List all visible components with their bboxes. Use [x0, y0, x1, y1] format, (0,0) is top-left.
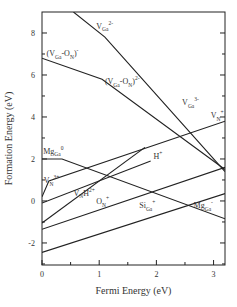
x-tick-label: 3	[212, 270, 216, 279]
defect-label: (VGa-ON)2-	[105, 75, 140, 88]
y-tick-label: 4	[31, 113, 35, 122]
y-tick-label: 8	[31, 29, 35, 38]
defect-label: VGa3-	[182, 96, 199, 109]
annotations: VGa2-(VGa-ON)-(VGa-ON)2-VGa3-VN+MgGa0VN3…	[43, 20, 223, 212]
x-tick-label: 2	[154, 270, 158, 279]
defect-label: VN3+	[44, 174, 60, 187]
defect-label: VNH2+	[73, 187, 94, 200]
defect-label: MgGa-	[194, 199, 214, 212]
x-axis-title: Fermi Energy (eV)	[96, 285, 172, 297]
y-tick-label: 2	[31, 155, 35, 164]
x-tick-label: 1	[97, 270, 101, 279]
y-axis-title: Formation Energy (eV)	[3, 92, 15, 186]
defect-label: VGa2-	[96, 20, 113, 33]
x-tick-label: 0	[40, 270, 44, 279]
defect-label: (VGa-ON)-	[47, 47, 79, 60]
defect-label: SiGa+	[139, 199, 155, 212]
defect-label: VN+	[211, 109, 224, 122]
formation-energy-chart: 0123-202468 VGa2-(VGa-ON)-(VGa-ON)2-VGa3…	[0, 0, 237, 307]
defect-label: H+	[154, 150, 163, 161]
y-tick-label: -2	[28, 239, 35, 248]
series-line-0	[73, 12, 225, 172]
y-tick-label: 0	[31, 197, 35, 206]
defect-label: MgGa0	[43, 145, 64, 158]
series-lines	[42, 12, 225, 252]
defect-label: ON+	[96, 195, 109, 208]
y-tick-label: 6	[31, 71, 35, 80]
series-line-6	[42, 167, 225, 229]
